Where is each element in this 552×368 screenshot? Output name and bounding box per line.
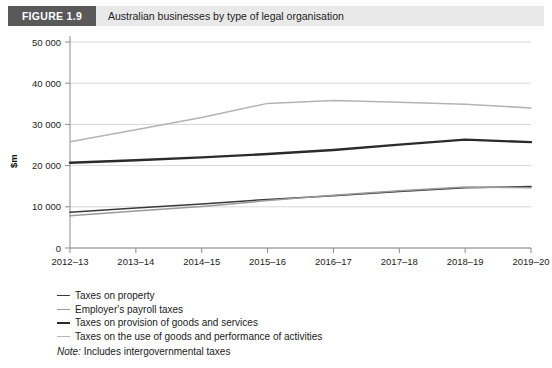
figure-header-bar: FIGURE 1.9 Australian businesses by type…	[8, 6, 544, 26]
figure-title: Australian businesses by type of legal o…	[108, 6, 344, 26]
x-tick-label: 2015–16	[249, 256, 286, 267]
legend-swatch-line-icon	[57, 322, 70, 324]
note-text: Includes intergovernmental taxes	[84, 346, 231, 357]
legend-label: Taxes on property	[75, 290, 155, 301]
legend-swatch-line-icon	[57, 309, 70, 310]
x-tick-label: 2013–14	[117, 256, 154, 267]
series-line	[70, 187, 531, 216]
x-tick-label: 2017–18	[381, 256, 418, 267]
figure-note: Note: Includes intergovernmental taxes	[57, 346, 477, 357]
series-line	[70, 187, 531, 213]
chart-legend: Taxes on property Employer's payroll tax…	[57, 289, 477, 357]
y-tick-label: 0	[56, 243, 61, 254]
figure-page: FIGURE 1.9 Australian businesses by type…	[0, 0, 552, 368]
legend-item-taxes-on-property: Taxes on property	[57, 289, 477, 303]
legend-item-taxes-on-provision-of-goods-and-services: Taxes on provision of goods and services	[57, 316, 477, 330]
legend-label: Employer's payroll taxes	[75, 304, 183, 315]
y-tick-label: 50 000	[32, 37, 61, 48]
note-prefix: Note:	[57, 346, 81, 357]
y-tick-label: 30 000	[32, 119, 61, 130]
y-tick-label: 20 000	[32, 160, 61, 171]
x-tick-label: 2016–17	[315, 256, 352, 267]
legend-swatch-line-icon	[57, 336, 70, 337]
legend-label: Taxes on provision of goods and services	[75, 317, 258, 328]
figure-number-badge: FIGURE 1.9	[8, 6, 96, 26]
line-chart: 010 00020 00030 00040 00050 0002012–1320…	[0, 28, 552, 268]
chart-area: $m 010 00020 00030 00040 00050 0002012–1…	[0, 28, 552, 268]
legend-item-employers-payroll-taxes: Employer's payroll taxes	[57, 303, 477, 317]
y-tick-label: 40 000	[32, 78, 61, 89]
legend-item-taxes-on-use-of-goods: Taxes on the use of goods and performanc…	[57, 330, 477, 344]
x-tick-label: 2019–20	[513, 256, 550, 267]
x-tick-label: 2014–15	[183, 256, 220, 267]
series-line	[70, 101, 531, 142]
series-line	[70, 140, 531, 163]
legend-swatch-line-icon	[57, 295, 70, 296]
y-axis-title: $m	[8, 154, 19, 168]
x-tick-label: 2012–13	[52, 256, 89, 267]
x-tick-label: 2018–19	[447, 256, 484, 267]
legend-label: Taxes on the use of goods and performanc…	[75, 331, 322, 342]
y-tick-label: 10 000	[32, 201, 61, 212]
